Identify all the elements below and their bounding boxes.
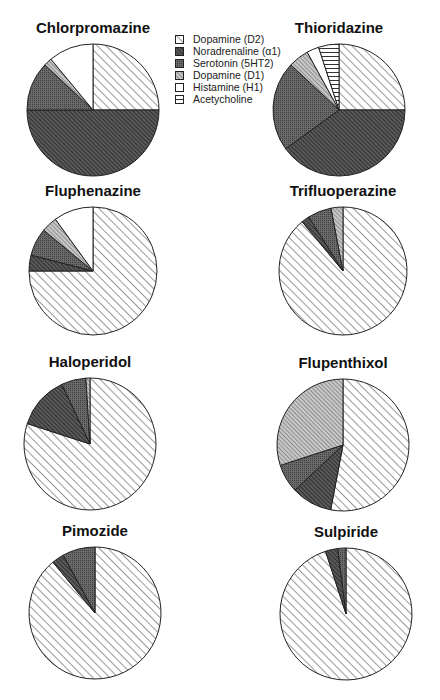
legend-item-na: Noradrenaline (α1): [175, 45, 281, 57]
legend-label: Dopamine (D1): [193, 69, 264, 81]
pie-chart-haloperidol: Haloperidol: [24, 353, 156, 510]
legend-item-his: Histamine (H1): [175, 81, 281, 93]
pie-title: Thioridazine: [295, 19, 383, 36]
legend-swatch-icon: [175, 95, 184, 104]
pie-chart-chlorpromazine: Chlorpromazine: [27, 19, 159, 176]
legend-label: Dopamine (D2): [193, 33, 264, 45]
pie-title: Fluphenazine: [45, 182, 141, 199]
legend-swatch-icon: [175, 83, 184, 92]
pie-chart-sulpiride: Sulpiride: [280, 523, 412, 680]
pie-title: Flupenthixol: [298, 354, 387, 371]
pie-charts-figure: ChlorpromazineThioridazineFluphenazineTr…: [0, 0, 440, 700]
pie-chart-fluphenazine: Fluphenazine: [29, 182, 157, 335]
pie-title: Chlorpromazine: [36, 19, 150, 36]
legend-swatch-icon: [175, 35, 184, 44]
pie-title: Pimozide: [62, 522, 128, 539]
pie-chart-trifluoperazine: Trifluoperazine: [279, 182, 407, 335]
legend: Dopamine (D2)Noradrenaline (α1)Serotonin…: [175, 33, 281, 105]
pie-chart-pimozide: Pimozide: [29, 522, 161, 679]
legend-item-ser: Serotonin (5HT2): [175, 57, 281, 69]
legend-label: Noradrenaline (α1): [193, 45, 281, 57]
pie-chart-flupenthixol: Flupenthixol: [277, 354, 409, 511]
pie-chart-thioridazine: Thioridazine: [273, 19, 405, 176]
pie-title: Haloperidol: [49, 353, 132, 370]
legend-label: Serotonin (5HT2): [193, 57, 274, 69]
legend-item-ach: Acetycholine: [175, 93, 281, 105]
legend-swatch-icon: [175, 47, 184, 56]
pie-slice-na: [27, 110, 159, 176]
pie-title: Sulpiride: [314, 523, 378, 540]
pie-title: Trifluoperazine: [290, 182, 397, 199]
legend-label: Acetycholine: [193, 93, 253, 105]
legend-swatch-icon: [175, 71, 184, 80]
legend-item-d2: Dopamine (D2): [175, 33, 281, 45]
pie-slice-d2: [339, 44, 405, 110]
legend-swatch-icon: [175, 59, 184, 68]
pie-group: ChlorpromazineThioridazineFluphenazineTr…: [24, 19, 412, 680]
legend-item-d1: Dopamine (D1): [175, 69, 281, 81]
legend-label: Histamine (H1): [193, 81, 263, 93]
pie-slice-d2: [93, 44, 159, 110]
